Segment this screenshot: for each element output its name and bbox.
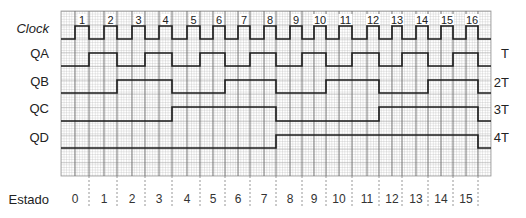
pulse-number: 9 (293, 14, 299, 26)
pulse-number: 12 (367, 14, 379, 26)
state-number: 10 (332, 192, 346, 206)
label-qb: QB (30, 74, 49, 89)
state-number: 0 (72, 192, 79, 206)
period-label-qb: 2T (494, 75, 509, 90)
state-number: 13 (409, 192, 423, 206)
state-numbers: 0123456789101112131415 (72, 192, 473, 206)
pulse-number: 3 (135, 14, 141, 26)
state-number: 5 (210, 192, 217, 206)
pulse-number: 2 (107, 14, 113, 26)
state-number: 1 (101, 192, 108, 206)
state-number: 14 (434, 192, 448, 206)
pulse-number: 5 (190, 14, 196, 26)
pulse-number: 8 (267, 14, 273, 26)
timing-diagram: 12345678910111213141516 0123456789101112… (0, 0, 526, 218)
pulse-number: 7 (241, 14, 247, 26)
period-label-qc: 3T (494, 102, 509, 117)
pulse-number: 11 (340, 14, 351, 26)
state-number: 12 (385, 192, 399, 206)
pulse-number: 10 (314, 14, 326, 26)
period-label-qa: T (501, 46, 509, 61)
state-number: 8 (287, 192, 294, 206)
pulse-number: 4 (162, 14, 168, 26)
state-number: 11 (361, 192, 374, 206)
pulse-number: 1 (79, 14, 85, 26)
pulse-number: 15 (441, 14, 453, 26)
pulse-number: 6 (216, 14, 222, 26)
pulse-number: 16 (466, 14, 478, 26)
pulse-number: 14 (416, 14, 428, 26)
label-qd: QD (30, 130, 50, 145)
label-estado: Estado (9, 192, 49, 207)
label-clock: Clock (16, 21, 50, 36)
state-number: 9 (311, 192, 318, 206)
pulse-number: 13 (391, 14, 403, 26)
label-qc: QC (30, 101, 50, 116)
state-number: 4 (184, 192, 191, 206)
state-number: 6 (235, 192, 242, 206)
period-label-qd: 4T (494, 130, 509, 145)
state-number: 15 (459, 192, 473, 206)
state-number: 3 (156, 192, 163, 206)
label-qa: QA (30, 46, 49, 61)
state-number: 2 (129, 192, 136, 206)
state-number: 7 (261, 192, 268, 206)
